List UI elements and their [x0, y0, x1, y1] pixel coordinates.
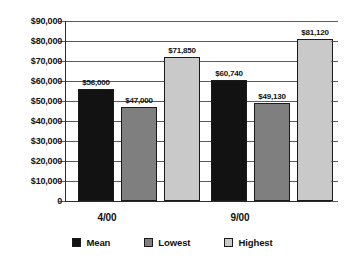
gridline-90000: [65, 21, 331, 22]
plot-area: $56,000 $47,000 $71,850 $60,740 $49,130 …: [65, 21, 331, 201]
tick-right-30000: [331, 141, 338, 142]
y-axis-line: [65, 21, 66, 202]
legend-swatch-mean-icon: [72, 238, 81, 247]
bar-9-00-lowest: [254, 103, 290, 201]
legend-swatch-lowest-icon: [144, 238, 153, 247]
y-tick-label-70000: $70,000: [6, 57, 62, 66]
bar-9-00-highest: [297, 39, 333, 201]
legend-label-mean: Mean: [86, 237, 110, 248]
y-tick-label-0: 0: [6, 197, 62, 206]
legend-swatch-highest-icon: [224, 238, 233, 247]
bar-value-9-00-highest: $81,120: [291, 28, 339, 37]
legend-item-highest: Highest: [224, 237, 272, 248]
bar-4-00-highest: [164, 57, 200, 201]
axis-baseline: [65, 201, 331, 202]
bar-4-00-lowest: [121, 107, 157, 201]
x-category-label-9-00: 9/00: [207, 212, 273, 223]
tick-right-0: [331, 201, 338, 202]
x-category-label-4-00: 4/00: [74, 212, 140, 223]
legend-item-mean: Mean: [72, 237, 110, 248]
tick-right-80000: [331, 41, 338, 42]
gridline-80000: [65, 41, 331, 42]
y-tick-label-80000: $80,000: [6, 37, 62, 46]
y-tick-label-30000: $30,000: [6, 137, 62, 146]
tick-right-90000: [331, 21, 338, 22]
tick-right-50000: [331, 101, 338, 102]
bar-4-00-mean: [78, 89, 114, 201]
bar-value-4-00-highest: $71,850: [158, 46, 206, 55]
y-tick-label-40000: $40,000: [6, 117, 62, 126]
bar-value-9-00-lowest: $49,130: [248, 92, 296, 101]
legend-item-lowest: Lowest: [144, 237, 190, 248]
y-tick-label-50000: $50,000: [6, 97, 62, 106]
y-tick-label-10000: $10,000: [6, 177, 62, 186]
legend-label-highest: Highest: [238, 237, 272, 248]
tick-right-70000: [331, 61, 338, 62]
y-tick-label-90000: $90,000: [6, 17, 62, 26]
chart-legend: Mean Lowest Highest: [0, 237, 345, 248]
legend-label-lowest: Lowest: [158, 237, 190, 248]
y-tick-label-20000: $20,000: [6, 157, 62, 166]
bar-value-4-00-mean: $56,000: [72, 78, 120, 87]
tick-right-60000: [331, 81, 338, 82]
tick-right-10000: [331, 181, 338, 182]
bar-chart: $56,000 $47,000 $71,850 $60,740 $49,130 …: [0, 0, 345, 262]
bar-value-4-00-lowest: $47,000: [115, 96, 163, 105]
bar-value-9-00-mean: $60,740: [205, 69, 253, 78]
y-tick-label-60000: $60,000: [6, 77, 62, 86]
tick-right-40000: [331, 121, 338, 122]
tick-right-20000: [331, 161, 338, 162]
bar-9-00-mean: [211, 80, 247, 201]
